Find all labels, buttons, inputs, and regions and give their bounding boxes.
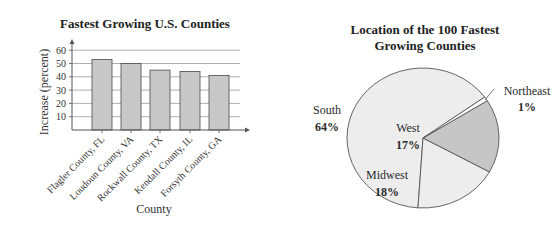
x-tick-labels: Flagler County, FLLoudoun County, VARock… — [45, 133, 224, 203]
slice-value-northeast: 1% — [518, 100, 536, 114]
bar — [209, 75, 229, 130]
northeast-leader-line — [485, 89, 494, 100]
pie-slices — [347, 68, 499, 208]
bar — [121, 64, 141, 131]
bar-chart-panel: Fastest Growing U.S. Counties 1020304050… — [0, 0, 280, 225]
y-tick-label: 20 — [56, 98, 66, 109]
x-axis-label: County — [136, 202, 171, 216]
y-tick-label: 30 — [56, 85, 66, 96]
y-tick-label: 10 — [56, 111, 66, 122]
bar — [180, 71, 200, 130]
slice-value-west: 17% — [396, 138, 420, 152]
y-tick-label: 60 — [56, 45, 66, 56]
pie-chart-panel: Location of the 100 Fastest Growing Coun… — [280, 0, 553, 225]
y-tick-label: 40 — [56, 71, 66, 82]
bar — [92, 60, 112, 130]
slice-value-midwest: 18% — [375, 185, 399, 199]
bar — [150, 70, 170, 130]
bars — [92, 60, 229, 133]
y-tick-label: 50 — [56, 58, 66, 69]
y-tick-labels: 102030405060 — [56, 45, 66, 123]
slice-value-south: 64% — [315, 120, 339, 134]
slice-label-south: South — [313, 103, 341, 117]
bar-chart-plot: 102030405060 Flagler County, FLLoudoun C… — [0, 0, 280, 225]
slice-label-midwest: Midwest — [366, 168, 409, 182]
pie-chart-plot: South64%West17%Midwest18%Northeast1% — [280, 0, 553, 225]
y-axis-label: Increase (percent) — [37, 49, 51, 135]
slice-label-northeast: Northeast — [504, 84, 551, 98]
slice-label-west: West — [396, 121, 420, 135]
